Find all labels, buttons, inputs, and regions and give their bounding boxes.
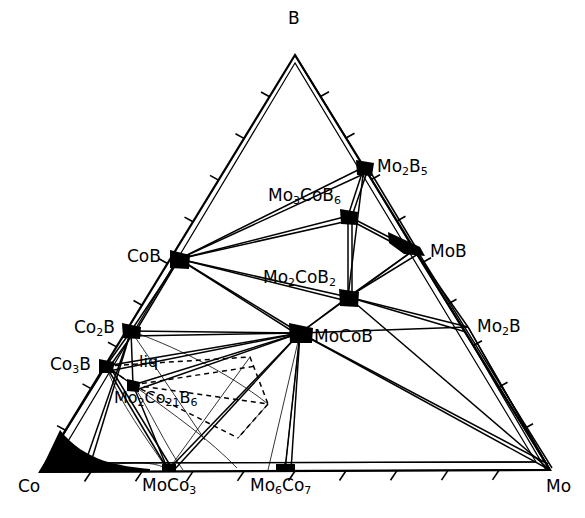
corner-label-B: B [288, 10, 300, 27]
phase-label-Co3B: Co3B [50, 356, 91, 375]
corner-label-Co: Co [18, 478, 40, 495]
phase-label-Mo2B: Mo2B [477, 318, 521, 337]
phase-label-Mo3CoB6: Mo3CoB6 [268, 187, 341, 206]
phase-label-Mo2Co21B6: Mo2Co21B6 [114, 390, 198, 408]
phase-label-MoCoB: MoCoB [314, 328, 373, 345]
phase-label-liq: liq [139, 354, 158, 370]
ternary-diagram-figure: B Co Mo Mo2B5 Mo3CoB6 CoB MoB Mo2CoB2 Mo… [0, 0, 585, 518]
phase-label-MoB: MoB [430, 243, 467, 260]
phase-label-CoB: CoB [127, 248, 161, 265]
phase-label-Mo2B5: Mo2B5 [377, 158, 428, 177]
ternary-diagram-canvas [0, 0, 585, 518]
phase-label-MoCo3: MoCo3 [142, 477, 196, 496]
corner-label-Mo: Mo [546, 478, 571, 495]
tie-lines-upper [295, 55, 552, 470]
phase-label-Mo2CoB2: Mo2CoB2 [263, 269, 336, 288]
phase-label-Co2B: Co2B [74, 319, 115, 338]
phase-label-Mo6Co7: Mo6Co7 [250, 477, 311, 496]
